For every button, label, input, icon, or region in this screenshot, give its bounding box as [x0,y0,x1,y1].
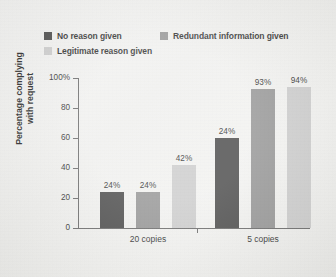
bar-20copies-no-reason-given: 24% [100,192,124,228]
bar-5copies-legitimate-reason-given: 94% [287,87,311,228]
legend-label-redundant-information-given: Redundant information given [173,31,288,41]
y-tick-label-80: 80 [61,103,70,112]
y-tick-label-20: 20 [61,193,70,202]
y-tick-0: 0 [73,228,78,229]
bar-value-5copies-legitimate-reason-given: 94% [291,76,307,85]
legend-item-no-reason-given: No reason given [44,31,122,41]
bar-value-5copies-redundant-information-given: 93% [255,78,271,87]
legend-swatch-legitimate-reason-given [44,47,52,55]
chart-figure: No reason given Redundant information gi… [0,0,336,277]
bar-value-20copies-legitimate-reason-given: 42% [176,154,192,163]
y-axis-title-line-1: Percentage complying [14,29,25,169]
plot-area: 100% 80 60 40 20 0 24% 24% 42% 20 copies [78,78,310,228]
y-axis-title: Percentage complying with request [14,29,35,169]
y-tick-40: 40 [73,168,78,169]
x-group-separator-tick [197,228,198,233]
y-axis-title-line-2: with request [24,29,35,169]
bar-5copies-no-reason-given: 24% [215,138,239,228]
bar-5copies-redundant-information-given: 93% [251,89,275,228]
y-tick-60: 60 [73,138,78,139]
y-axis-spine [78,78,79,228]
legend-label-legitimate-reason-given: Legitimate reason given [57,46,152,56]
chart-legend: No reason given Redundant information gi… [44,31,328,65]
y-tick-80: 80 [73,108,78,109]
y-tick-100: 100% [73,78,78,79]
x-category-label-5-copies: 5 copies [247,234,279,244]
y-tick-label-0: 0 [65,223,70,232]
y-tick-label-100: 100% [49,73,70,82]
y-tick-label-40: 40 [61,163,70,172]
bar-value-20copies-redundant-information-given: 24% [140,181,156,190]
x-axis-spine [78,228,310,229]
y-tick-20: 20 [73,198,78,199]
bar-value-20copies-no-reason-given: 24% [104,181,120,190]
bar-20copies-redundant-information-given: 24% [136,192,160,228]
bar-value-5copies-no-reason-given: 24% [219,127,235,136]
bar-20copies-legitimate-reason-given: 42% [172,165,196,228]
legend-label-no-reason-given: No reason given [57,31,122,41]
legend-item-redundant-information-given: Redundant information given [160,31,288,41]
x-category-label-20-copies: 20 copies [130,234,166,244]
y-tick-label-60: 60 [61,133,70,142]
legend-swatch-no-reason-given [44,32,52,40]
legend-swatch-redundant-information-given [160,32,168,40]
legend-item-legitimate-reason-given: Legitimate reason given [44,46,152,56]
